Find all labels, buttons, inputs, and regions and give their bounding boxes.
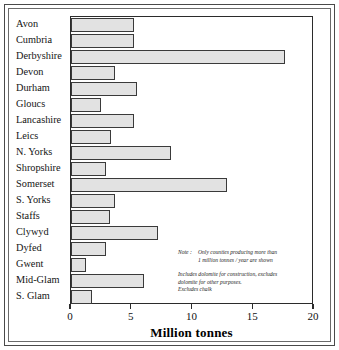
category-label: Cumbria [16, 32, 66, 48]
x-tick-label: 5 [128, 310, 134, 322]
x-tick-mark [130, 304, 131, 309]
x-tick-mark [252, 304, 253, 309]
note-secondary: Includes dolomite for construction, excl… [178, 271, 310, 294]
category-label: Staffs [16, 208, 66, 224]
bar [71, 34, 134, 48]
x-axis-title: Million tonnes [70, 325, 313, 341]
bar-row [71, 113, 312, 129]
x-tick-label: 10 [186, 310, 197, 322]
bar [71, 82, 137, 96]
note-para-line-2: dolomite for other purposes. [178, 279, 310, 287]
bar-row [71, 209, 312, 225]
bar [71, 18, 134, 32]
bar [71, 290, 92, 304]
category-label: N. Yorks [16, 144, 66, 160]
bar [71, 50, 285, 64]
x-tick-mark [191, 304, 192, 309]
x-tick-mark [69, 304, 70, 309]
bar [71, 226, 158, 240]
bar-chart: AvonCumbriaDerbyshireDevonDurhamGloucsLa… [0, 0, 339, 350]
note-text-line-1: Only counties producing more than [198, 249, 310, 257]
category-label: Derbyshire [16, 48, 66, 64]
note-label: Note : [178, 249, 198, 264]
bar-row [71, 129, 312, 145]
bar [71, 114, 134, 128]
category-label: Somerset [16, 176, 66, 192]
bar [71, 242, 106, 256]
bar [71, 130, 111, 144]
category-label: S. Yorks [16, 192, 66, 208]
category-label: Mid-Glam [16, 272, 66, 288]
category-label: Durham [16, 80, 66, 96]
category-label: S. Glam [16, 288, 66, 304]
x-tick-label: 15 [247, 310, 258, 322]
bar-row [71, 177, 312, 193]
bar [71, 146, 171, 160]
bar-row [71, 193, 312, 209]
bar [71, 258, 86, 272]
category-label: Clywyd [16, 224, 66, 240]
bar-row [71, 33, 312, 49]
note-text-line-2: 1 million tonnes / year are shown [198, 257, 310, 265]
note-para-line-1: Includes dolomite for construction, excl… [178, 271, 310, 279]
category-label: Shropshire [16, 160, 66, 176]
x-tick-mark [312, 304, 313, 309]
category-label: Devon [16, 64, 66, 80]
bar [71, 274, 144, 288]
category-label: Lancashire [16, 112, 66, 128]
bar [71, 98, 101, 112]
note-text: Only counties producing more than 1 mill… [198, 249, 310, 264]
category-label: Dyfed [16, 240, 66, 256]
x-tick-label: 0 [67, 310, 73, 322]
bar-row [71, 49, 312, 65]
bar-row [71, 81, 312, 97]
x-tick-label: 20 [308, 310, 319, 322]
bar [71, 194, 115, 208]
bar-row [71, 97, 312, 113]
category-label: Avon [16, 16, 66, 32]
bar [71, 210, 110, 224]
bar-row [71, 17, 312, 33]
bar [71, 162, 106, 176]
chart-notes: Note : Only counties producing more than… [178, 249, 310, 294]
bar [71, 66, 115, 80]
bar-row [71, 161, 312, 177]
category-label: Gwent [16, 256, 66, 272]
note-para-line-3: Excludes chalk [178, 286, 310, 294]
bar-row [71, 225, 312, 241]
category-label: Leics [16, 128, 66, 144]
bar-row [71, 65, 312, 81]
category-label: Gloucs [16, 96, 66, 112]
note-primary: Note : Only counties producing more than… [178, 249, 310, 264]
bar [71, 178, 227, 192]
bar-row [71, 145, 312, 161]
